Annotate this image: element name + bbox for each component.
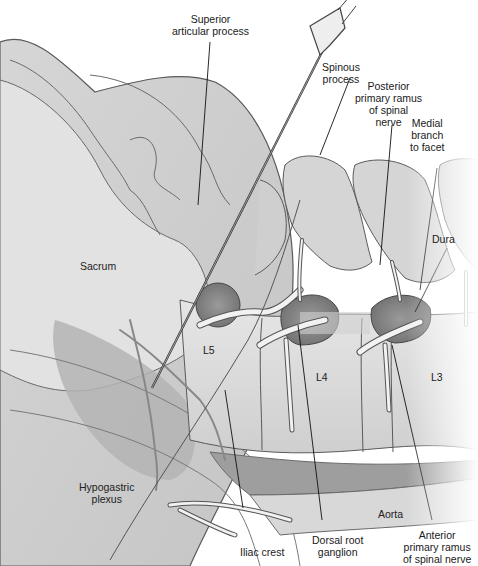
label-line: Medial	[410, 117, 444, 129]
label-line: Hypogastric	[79, 481, 134, 493]
label-dura: Dura	[432, 233, 455, 245]
label-iliac-crest: Iliac crest	[240, 546, 284, 558]
label-aorta: Aorta	[378, 508, 403, 520]
label-line: plexus	[79, 493, 134, 505]
label-line: Aorta	[378, 508, 403, 520]
label-line: Anterior	[403, 529, 471, 541]
label-superior-articular-process: Superior articular process	[172, 13, 249, 37]
label-line: Dura	[432, 233, 455, 245]
label-hypogastric-plexus: Hypogastric plexus	[79, 481, 134, 505]
label-anterior-primary-ramus: Anterior primary ramus of spinal nerve	[403, 529, 471, 565]
label-l3: L3	[431, 371, 443, 383]
label-line: Sacrum	[80, 260, 116, 272]
label-medial-branch: Medial branch to facet	[410, 117, 444, 153]
label-line: L5	[203, 344, 215, 356]
label-line: primary ramus	[403, 541, 471, 553]
label-line: to facet	[410, 141, 444, 153]
label-line: branch	[410, 129, 444, 141]
label-line: Iliac crest	[240, 546, 284, 558]
label-line: Superior	[172, 13, 249, 25]
label-line: Spinous	[322, 61, 360, 73]
label-sacrum: Sacrum	[80, 260, 116, 272]
label-line: L3	[431, 371, 443, 383]
label-l5: L5	[203, 344, 215, 356]
label-line: of spinal	[355, 104, 422, 116]
label-line: L4	[316, 371, 328, 383]
label-line: of spinal nerve	[403, 553, 471, 565]
label-dorsal-root-ganglion: Dorsal root ganglion	[312, 534, 363, 558]
anatomy-figure: Superior articular process Spinous proce…	[0, 0, 478, 566]
label-line: articular process	[172, 25, 249, 37]
label-line: primary ramus	[355, 92, 422, 104]
label-l4: L4	[316, 371, 328, 383]
label-line: Dorsal root	[312, 534, 363, 546]
label-line: Posterior	[355, 80, 422, 92]
label-line: ganglion	[312, 546, 363, 558]
